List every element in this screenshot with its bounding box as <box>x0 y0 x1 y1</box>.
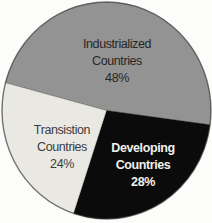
pie-chart-figure: Industrialized Countries 48% Developing … <box>0 0 212 223</box>
pie-chart <box>0 0 212 223</box>
